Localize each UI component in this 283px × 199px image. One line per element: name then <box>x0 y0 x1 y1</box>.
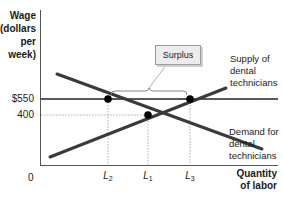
x-label-line: Quantity <box>236 168 277 180</box>
x-tick-subscript: 2 <box>109 175 113 182</box>
supply-label: Supply of dental technicians <box>230 53 278 89</box>
y-label-line: Wage <box>0 9 36 22</box>
demand-label-line: dental <box>229 138 279 150</box>
y-axis-label: Wage (dollars per week) <box>0 9 36 61</box>
x-tick-l3: L3 <box>180 170 200 182</box>
point-demand-at-550 <box>104 95 112 103</box>
x-axis-label: Quantity of labor <box>236 168 277 192</box>
y-label-line: week) <box>0 48 36 61</box>
demand-label-line: Demand for <box>229 126 279 138</box>
labor-market-chart: Wage (dollars per week) $550 400 0 L2 L1… <box>0 0 283 199</box>
point-supply-at-550 <box>186 95 194 103</box>
point-equilibrium <box>144 111 152 119</box>
x-tick-l2: L2 <box>98 170 118 182</box>
demand-label: Demand for dental technicians <box>229 126 279 162</box>
surplus-callout: Surplus <box>155 45 201 65</box>
supply-label-line: dental <box>230 65 278 77</box>
x-tick-subscript: 3 <box>191 175 195 182</box>
y-label-line: (dollars <box>0 22 36 35</box>
surplus-pointer <box>149 64 167 88</box>
x-label-line: of labor <box>236 180 277 192</box>
y-tick-550: $550 <box>0 93 34 104</box>
supply-label-line: Supply of <box>230 53 278 65</box>
origin-label: 0 <box>28 172 34 183</box>
demand-label-line: technicians <box>229 150 279 162</box>
supply-label-line: technicians <box>230 77 278 89</box>
y-tick-400: 400 <box>0 109 34 120</box>
surplus-bracket <box>111 88 187 95</box>
y-label-line: per <box>0 35 36 48</box>
x-tick-l1: L1 <box>138 170 158 182</box>
x-tick-subscript: 1 <box>149 175 153 182</box>
